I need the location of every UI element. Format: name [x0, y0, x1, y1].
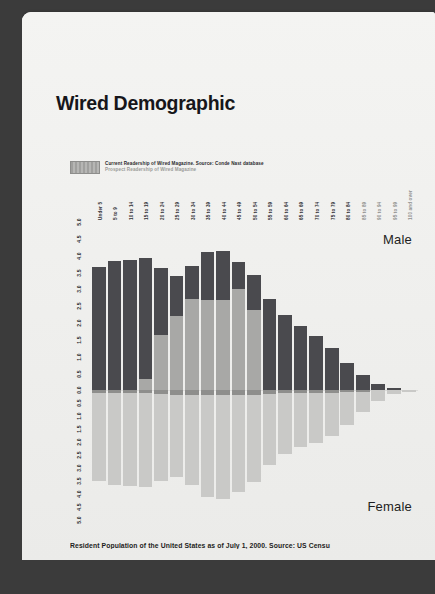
bar-female-readership-overlay — [232, 390, 246, 395]
series-label-female: Female — [367, 499, 412, 514]
x-axis-tick-label: 60 to 64 — [284, 202, 289, 220]
bar-male — [232, 262, 246, 391]
bar-male-readership-overlay — [201, 300, 215, 390]
x-axis-tick-label: 40 to 44 — [222, 202, 227, 220]
y-axis-tick-label: 3.5 — [75, 264, 83, 282]
bar-male — [108, 261, 122, 391]
y-axis-tick-label: 3.0 — [75, 280, 83, 298]
bar-female-readership-overlay — [247, 390, 261, 395]
bar-column — [92, 222, 106, 520]
bar-column — [201, 222, 215, 520]
bar-male-readership-overlay — [154, 335, 168, 391]
x-axis-tick-label: 100 and over — [408, 190, 413, 220]
bar-column — [170, 222, 184, 520]
bar-column — [356, 222, 370, 520]
chart-legend: Current Readership of Wired Magazine. So… — [70, 161, 264, 174]
x-axis-tick-label: 35 to 39 — [206, 202, 211, 220]
bar-male — [170, 276, 184, 390]
bar-female — [170, 390, 184, 476]
bar-female-readership-overlay — [309, 390, 323, 393]
bar-female-readership-overlay — [154, 390, 168, 394]
bar-male-readership-overlay — [170, 316, 184, 390]
bar-female — [371, 390, 385, 401]
x-axis-tick-label: 75 to 79 — [331, 202, 336, 220]
bar-female-readership-overlay — [108, 390, 122, 393]
y-axis-tick-label: 0.5 — [75, 365, 83, 383]
bar-female — [356, 390, 370, 412]
bar-female — [387, 390, 401, 394]
bar-male-readership-overlay — [139, 379, 153, 391]
bar-column — [325, 222, 339, 520]
bar-column — [139, 222, 153, 520]
y-axis-tick-label: 4.5 — [75, 230, 83, 248]
bar-female-readership-overlay — [216, 390, 230, 395]
bar-female — [108, 390, 122, 485]
legend-line-current: Current Readership of Wired Magazine. So… — [105, 161, 264, 166]
bar-female — [216, 390, 230, 498]
y-axis-tick-label: 2.5 — [75, 297, 83, 315]
x-axis-tick-label: 50 to 54 — [253, 202, 258, 220]
bar-column — [154, 222, 168, 520]
bar-male — [201, 252, 215, 390]
bar-female — [278, 390, 292, 454]
bar-column — [247, 222, 261, 520]
bar-female — [139, 390, 153, 486]
bar-male — [340, 363, 354, 391]
bar-female-readership-overlay — [170, 390, 184, 395]
bar-column — [108, 222, 122, 520]
y-axis-tick-label: 2.0 — [75, 314, 83, 332]
bar-female-readership-overlay — [325, 390, 339, 393]
x-axis-tick-label: 15 to 19 — [144, 202, 149, 220]
bar-female-readership-overlay — [278, 390, 292, 393]
bar-female — [232, 390, 246, 491]
bar-female-readership-overlay — [92, 390, 106, 393]
bar-column — [387, 222, 401, 520]
chart-plot-area — [92, 222, 418, 520]
bar-female — [340, 390, 354, 425]
bar-male — [294, 326, 308, 390]
bar-column — [402, 222, 416, 520]
bar-male — [139, 258, 153, 390]
bar-column — [294, 222, 308, 520]
bar-female-readership-overlay — [340, 390, 354, 392]
bar-female — [247, 390, 261, 482]
left-margin-band — [0, 0, 22, 594]
bar-female-readership-overlay — [185, 390, 199, 395]
bar-female-readership-overlay — [123, 390, 137, 393]
bar-female-readership-overlay — [201, 390, 215, 395]
bar-male — [185, 266, 199, 390]
bar-column — [232, 222, 246, 520]
bar-female — [325, 390, 339, 435]
legend-text-group: Current Readership of Wired Magazine. So… — [105, 161, 264, 173]
bar-column — [216, 222, 230, 520]
page-title: Wired Demographic — [56, 92, 235, 115]
printed-page: Wired Demographic Current Readership of … — [22, 12, 435, 560]
page-surface: Wired Demographic Current Readership of … — [22, 12, 435, 560]
bar-male — [154, 268, 168, 390]
bar-female — [294, 390, 308, 447]
x-axis-tick-label: 30 to 34 — [191, 202, 196, 220]
bar-female-readership-overlay — [294, 390, 308, 393]
x-axis-tick-label: 25 to 29 — [175, 202, 180, 220]
x-axis-tick-label: 5 to 9 — [113, 207, 118, 220]
bar-column — [263, 222, 277, 520]
y-axis-tick-label: 1.0 — [75, 348, 83, 366]
bar-male — [309, 336, 323, 391]
x-axis-tick-label: Under 5 — [98, 202, 103, 220]
bar-male-readership-overlay — [232, 289, 246, 390]
bar-male — [371, 384, 385, 391]
bar-column — [371, 222, 385, 520]
bar-male-readership-overlay — [185, 299, 199, 391]
bar-male-readership-overlay — [216, 300, 230, 390]
x-axis-tick-label: 55 to 59 — [268, 202, 273, 220]
bar-male — [216, 251, 230, 390]
bar-female-readership-overlay — [139, 390, 153, 393]
bar-male — [325, 348, 339, 390]
bar-male-readership-overlay — [247, 310, 261, 391]
x-axis-tick-label: 70 to 74 — [315, 202, 320, 220]
x-axis-tick-label: 85 to 89 — [362, 202, 367, 220]
x-axis-tick-label: 65 to 69 — [299, 202, 304, 220]
bar-male — [247, 275, 261, 390]
bar-column — [185, 222, 199, 520]
x-axis-tick-label: 10 to 14 — [129, 202, 134, 220]
